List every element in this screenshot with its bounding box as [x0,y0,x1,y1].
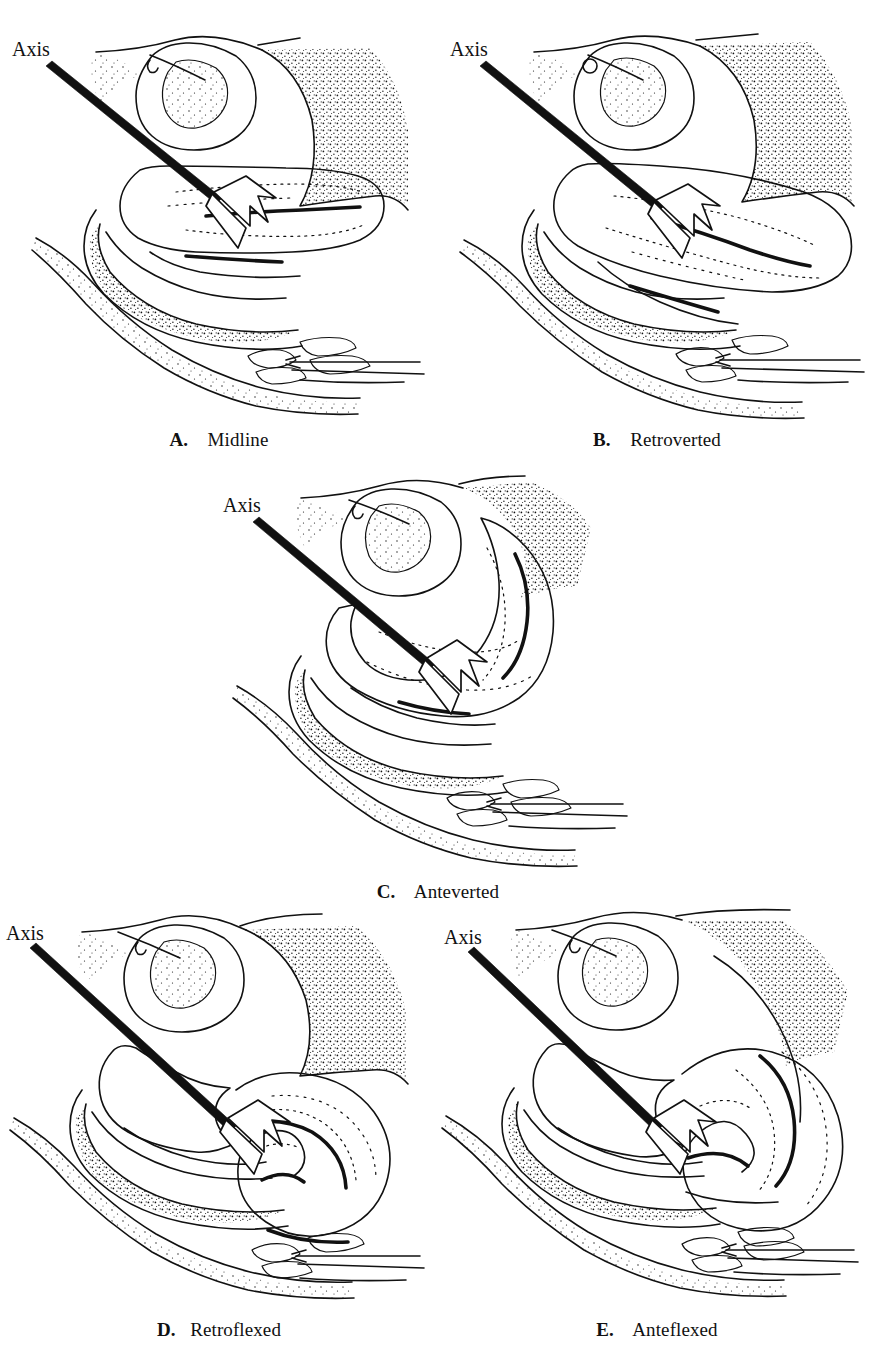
caption-e-letter: E. [596,1319,614,1340]
pubic-symphysis-detail-d [252,1234,424,1279]
caption-b-letter: B. [593,429,611,450]
panel-b-retroverted: Axis B. Retroverted [438,10,876,475]
figure-root: Axis A. Midline [0,0,876,1357]
panel-c-illustration: Axis [219,462,657,882]
caption-d: D. Retroflexed [0,1318,514,1342]
panel-c-anteverted: Axis C. Anteverted [219,462,657,927]
pubic-symphysis-detail-c [447,780,627,827]
caption-b: B. Retroverted [438,428,876,452]
pubic-symphysis-detail-b [676,336,864,383]
caption-c-letter: C. [377,881,396,902]
caption-d-name: Retroflexed [190,1319,281,1340]
panel-b-illustration: Axis [438,10,876,430]
panel-d-illustration: Axis [0,900,438,1320]
panel-d-retroflexed: Axis D. Retroflexed [0,900,438,1357]
caption-e: E. Anteflexed [438,1318,876,1342]
pubic-symphysis-detail [248,338,424,385]
caption-c-name: Anteverted [414,881,499,902]
axis-label-c: Axis [223,494,261,516]
caption-a-name: Midline [208,429,269,450]
caption-d-letter: D. [157,1319,176,1340]
caption-b-name: Retroverted [630,429,721,450]
axis-pointer-a [46,61,276,248]
axis-label-b: Axis [450,38,488,60]
panel-a-illustration: Axis [0,10,438,430]
pubic-symphysis-detail-e [682,1228,858,1273]
axis-label-a: Axis [12,38,50,60]
caption-a: A. Midline [0,428,488,452]
caption-a-letter: A. [170,429,189,450]
panel-e-anteflexed: Axis E. Anteflexed [438,900,876,1357]
axis-label-e: Axis [444,926,482,948]
axis-label-d: Axis [6,922,44,944]
panel-e-illustration: Axis [438,900,876,1320]
caption-e-name: Anteflexed [632,1319,717,1340]
panel-a-midline: Axis A. Midline [0,10,438,475]
